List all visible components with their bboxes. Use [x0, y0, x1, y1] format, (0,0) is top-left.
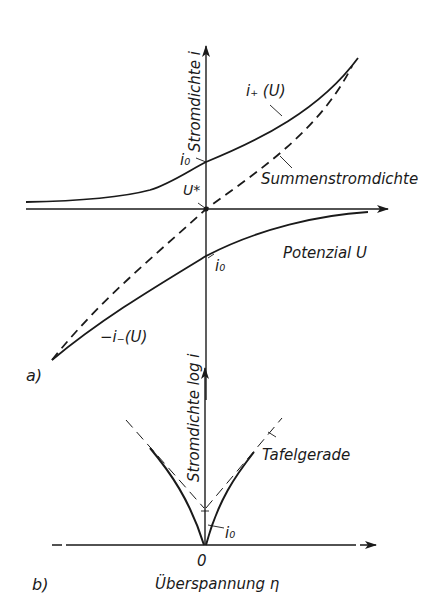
- tafel-marker: [268, 432, 276, 437]
- tafel-label: Tafelgerade: [262, 446, 350, 464]
- leader-sum: [280, 156, 292, 168]
- panel-b-y-axis-label: Stromdichte log i: [185, 353, 203, 482]
- cathodic-curve-label: −i₋(U): [100, 328, 147, 346]
- leader-ustar: [198, 203, 205, 208]
- panel-b-x-axis-label: Überspannung η: [155, 574, 280, 593]
- sum-curve-label: Summenstromdichte: [261, 170, 418, 188]
- origin-label: 0: [197, 552, 207, 570]
- equilibrium-label: U*: [183, 182, 200, 198]
- panel-b-label: b): [32, 575, 48, 594]
- i0-upper-label: i₀: [180, 151, 190, 169]
- x-axis-label-potential: Potenzial U: [283, 244, 367, 262]
- i0-lower-label: i₀: [215, 257, 225, 275]
- panel-a-y-axis-label: Stromdichte i: [186, 50, 204, 152]
- panel-b: Stromdichte log i Tafelgerade i₀ 0 Übers…: [32, 353, 376, 594]
- leader-anodic: [270, 105, 282, 116]
- i0-label-b: i₀: [225, 524, 235, 542]
- leader-i0-upper: [196, 158, 206, 162]
- anodic-curve-label: i₊ (U): [246, 82, 286, 100]
- panel-a-label: a): [26, 366, 42, 385]
- electrochemistry-diagram: Stromdichte i i₊ (U) Summenstromdichte i…: [0, 0, 428, 613]
- panel-a: Stromdichte i i₊ (U) Summenstromdichte i…: [26, 46, 418, 400]
